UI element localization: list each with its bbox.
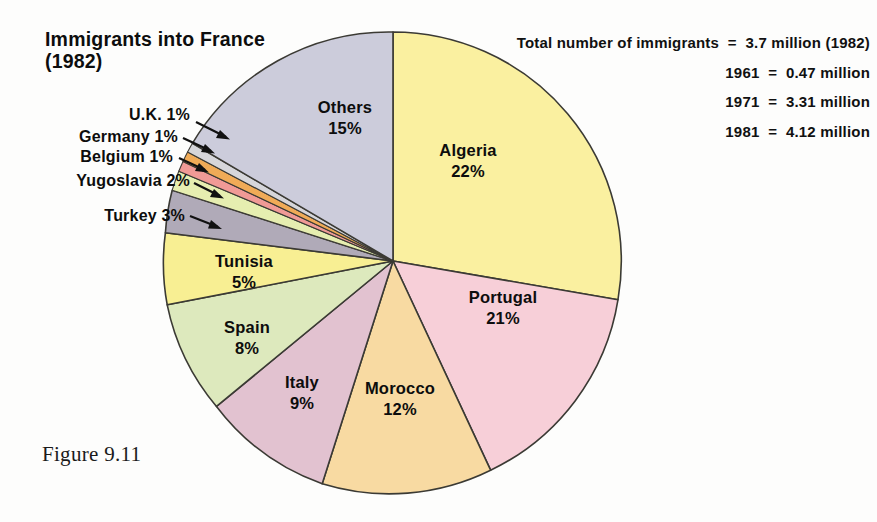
callout-label-belgium: Belgium 1% (10, 148, 173, 166)
callout-label-germany: Germany 1% (10, 128, 178, 146)
figure-caption: Figure 9.11 (42, 442, 141, 467)
pie-label-morocco: Morocco 12% (335, 378, 465, 420)
stat-line-total: Total number of immigrants = 3.7 million… (455, 28, 870, 58)
stat-line-1971: 1971 = 3.31 million (455, 87, 870, 117)
callout-label-turkey: Turkey 3% (10, 207, 185, 225)
pie-label-spain: Spain 8% (192, 317, 302, 359)
pie-label-algeria: Algeria 22% (408, 140, 528, 182)
page-title: Immigrants into France (1982) (45, 28, 375, 72)
stats-block: Total number of immigrants = 3.7 million… (455, 28, 870, 146)
figure-page: Immigrants into France (1982) Total numb… (0, 0, 877, 522)
stat-line-1961: 1961 = 0.47 million (455, 58, 870, 88)
pie-label-portugal: Portugal 21% (438, 287, 568, 329)
callout-label-yugoslavia: Yugoslavia 2% (10, 172, 190, 190)
pie-label-others: Others 15% (290, 97, 400, 139)
pie-label-italy: Italy 9% (257, 372, 347, 414)
pie-label-tunisia: Tunisia 5% (184, 251, 304, 293)
callout-label-uk: U.K. 1% (10, 106, 190, 124)
